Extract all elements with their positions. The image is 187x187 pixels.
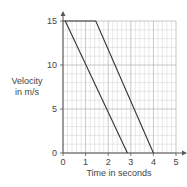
- x-axis-title: Time in seconds: [86, 168, 152, 178]
- x-tick-label: 3: [128, 157, 133, 167]
- y-tick-label: 15: [47, 16, 57, 26]
- y-axis-arrow-icon: [61, 11, 66, 16]
- x-tick-label: 1: [83, 157, 88, 167]
- x-tick-label: 5: [173, 157, 178, 167]
- y-tick-label: 10: [47, 60, 57, 70]
- x-tick-label: 4: [151, 157, 156, 167]
- series-line: [65, 21, 127, 153]
- x-tick-label: 2: [106, 157, 111, 167]
- grid: [63, 21, 176, 153]
- y-axis-title-line1: Velocity: [11, 76, 43, 86]
- x-tick-label: 0: [60, 157, 65, 167]
- y-axis-title-line2: in m/s: [15, 87, 40, 97]
- x-axis-arrow-icon: [182, 151, 187, 156]
- y-tick-label: 5: [52, 104, 57, 114]
- y-tick-label: 0: [52, 148, 57, 158]
- velocity-time-chart: Time in seconds Velocity in m/s 01234505…: [0, 0, 187, 187]
